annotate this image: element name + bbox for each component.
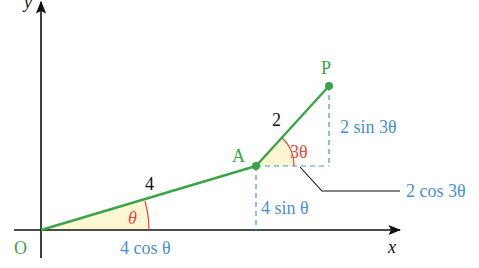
oa-vertical-component: 4 sin θ xyxy=(261,198,309,218)
oa-horizontal-component: 4 cos θ xyxy=(120,238,171,258)
theta-label: θ xyxy=(128,208,137,228)
origin-label: O xyxy=(14,238,27,258)
y-axis-label: y xyxy=(22,0,32,12)
point-a xyxy=(252,162,260,170)
three-theta-angle-fill xyxy=(256,137,294,166)
point-a-label: A xyxy=(232,146,245,166)
leader-line xyxy=(300,167,400,191)
x-axis-label: x xyxy=(387,237,396,257)
ap-horizontal-component: 2 cos 3θ xyxy=(406,181,466,201)
ap-vertical-component: 2 sin 3θ xyxy=(340,117,397,137)
three-theta-label: 3θ xyxy=(290,142,308,162)
diagram-canvas: y x O A P 4 2 θ 3θ 4 cos θ 4 sin θ 2 sin… xyxy=(0,0,479,268)
oa-length-label: 4 xyxy=(145,174,154,194)
point-p xyxy=(325,82,333,90)
point-p-label: P xyxy=(321,58,331,78)
ap-length-label: 2 xyxy=(272,110,281,130)
